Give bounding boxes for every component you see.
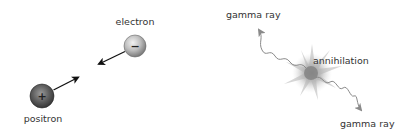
annihilation-diagram: electron − + positron annihilation gamma… bbox=[0, 0, 415, 138]
electron-minus-sign: − bbox=[130, 40, 139, 53]
annihilation-group: annihilation gamma ray gamma ray bbox=[226, 9, 395, 129]
positron-direction-arrow-icon bbox=[54, 78, 79, 91]
positron-group: + positron bbox=[24, 78, 78, 125]
electron-direction-arrow-icon bbox=[99, 52, 125, 65]
annihilation-burst-icon bbox=[284, 44, 342, 100]
positron-plus-sign: + bbox=[37, 90, 46, 103]
annihilation-label: annihilation bbox=[313, 55, 369, 66]
gamma-ray-label-top: gamma ray bbox=[226, 9, 281, 20]
positron-label: positron bbox=[24, 113, 63, 124]
electron-group: electron − bbox=[99, 16, 154, 64]
gamma-ray-label-bottom: gamma ray bbox=[340, 118, 395, 129]
electron-label: electron bbox=[116, 16, 155, 27]
